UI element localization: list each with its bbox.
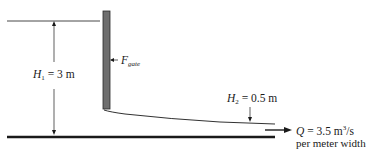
flow-unit: /s [346, 125, 354, 137]
h1-value: = 3 m [45, 68, 75, 80]
flow-note-text: per meter width [296, 137, 366, 149]
flow-note: per meter width [296, 138, 366, 149]
force-symbol: F [121, 54, 128, 66]
h2-value: = 0.5 m [239, 92, 277, 104]
force-arrow [110, 58, 118, 62]
sluice-gate [103, 11, 110, 109]
flow-arrow [265, 127, 292, 133]
force-label: Fgate [121, 55, 140, 68]
flow-label: Q = 3.5 m3/s [296, 125, 354, 138]
h1-label: H1 = 3 m [33, 69, 75, 82]
h2-pointer-arrow [248, 107, 252, 122]
h2-label: H2 = 0.5 m [227, 93, 277, 106]
force-subscript: gate [128, 60, 140, 68]
flow-value: = 3.5 m [304, 125, 342, 137]
